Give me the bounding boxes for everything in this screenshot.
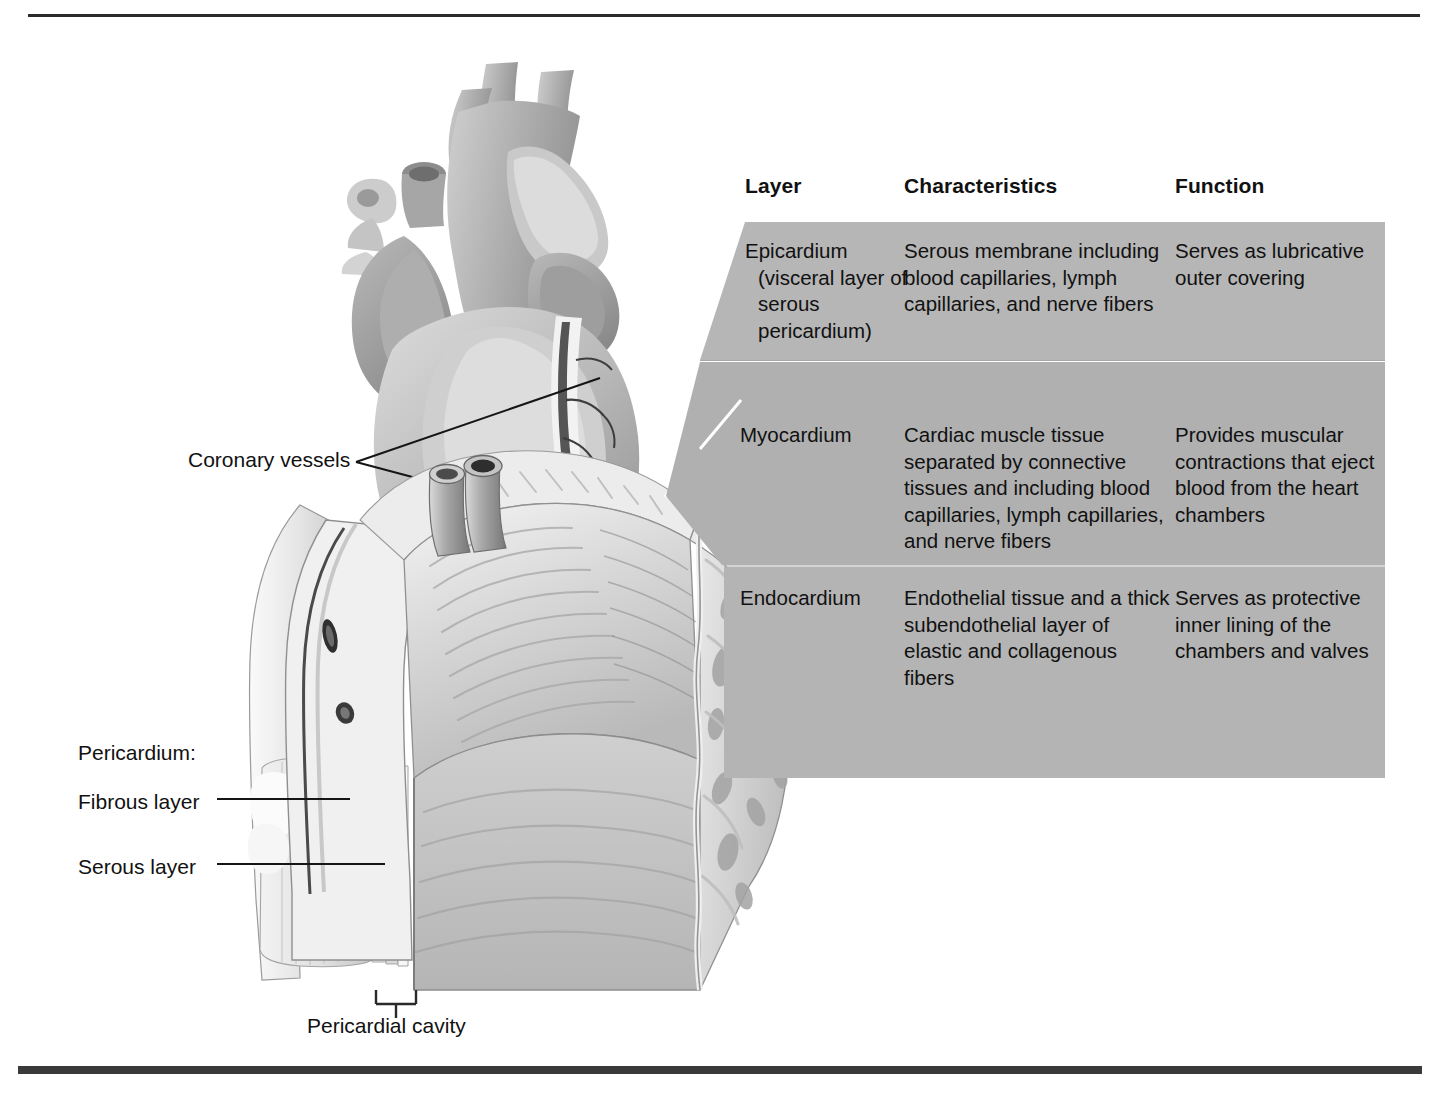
heart-wall-figure: Layer Characteristics Function Epicardiu… — [0, 0, 1439, 1107]
cell-layer-endocardium: Endocardium — [740, 585, 910, 612]
label-fibrous-layer: Fibrous layer — [78, 790, 199, 814]
column-header-function: Function — [1175, 174, 1264, 198]
column-header-characteristics: Characteristics — [904, 174, 1057, 198]
column-header-layer: Layer — [745, 174, 802, 198]
layers-table: Layer Characteristics Function Epicardiu… — [0, 0, 1439, 1107]
cell-characteristics-myocardium: Cardiac muscle tissue separated by conne… — [904, 422, 1172, 555]
cell-function-epicardium: Serves as lubricative outer covering — [1175, 238, 1375, 291]
cell-layer-epicardium: Epicardium (visceral layer of serous per… — [745, 238, 923, 344]
label-pericardial-cavity: Pericardial cavity — [307, 1014, 466, 1038]
cell-layer-myocardium: Myocardium — [740, 422, 910, 449]
cell-characteristics-epicardium: Serous membrane including blood capillar… — [904, 238, 1179, 318]
cell-characteristics-endocardium: Endothelial tissue and a thick subendoth… — [904, 585, 1172, 691]
cell-function-endocardium: Serves as protective inner lining of the… — [1175, 585, 1375, 665]
label-serous-layer: Serous layer — [78, 855, 196, 879]
label-pericardium: Pericardium: — [78, 741, 196, 765]
cell-function-myocardium: Provides muscular contractions that ejec… — [1175, 422, 1385, 528]
label-coronary-vessels: Coronary vessels — [188, 448, 350, 472]
